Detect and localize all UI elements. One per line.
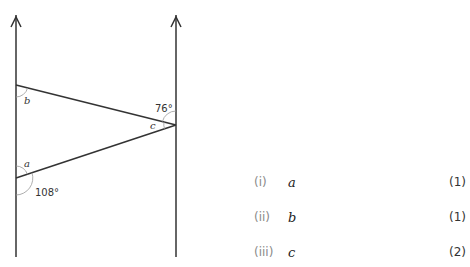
question-marks: (2) (449, 245, 466, 259)
angle-c-label: c (150, 120, 156, 131)
question-variable: a (288, 175, 296, 190)
question-row: (iii) c (2) (254, 242, 466, 262)
lower-transversal (16, 125, 176, 178)
question-number: (ii) (254, 210, 288, 224)
angle-108-arc (16, 173, 33, 195)
angle-c-arc (164, 122, 165, 129)
question-number: (i) (254, 175, 288, 189)
upper-transversal (16, 85, 176, 125)
angle-a-label: a (24, 158, 30, 169)
angle-108-label: 108° (35, 187, 59, 198)
angle-76-label: 76° (155, 103, 173, 114)
question-row: (ii) b (1) (254, 207, 466, 227)
question-variable: c (288, 245, 295, 260)
angle-b-label: b (24, 95, 30, 106)
question-variable: b (288, 210, 296, 225)
question-number: (iii) (254, 245, 288, 259)
question-marks: (1) (449, 175, 466, 189)
question-row: (i) a (1) (254, 172, 466, 192)
question-marks: (1) (449, 210, 466, 224)
